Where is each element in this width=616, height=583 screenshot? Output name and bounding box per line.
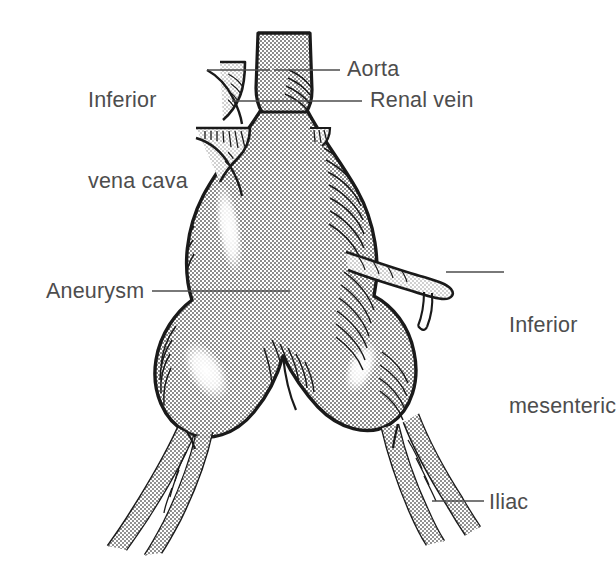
label-inferior-vena-cava-line1: Inferior	[88, 87, 188, 114]
label-iliac: Iliac	[489, 489, 528, 515]
label-renal-vein: Renal vein	[370, 87, 474, 113]
ima-tip-b	[427, 293, 432, 327]
label-inferior-mesenteric-line2: mesenteric	[509, 393, 616, 420]
aneurysm-illustration: Inferior vena cava Aorta Renal vein Infe…	[0, 0, 616, 583]
label-inferior-mesenteric-line1: Inferior	[509, 312, 616, 339]
left-iliac-artery	[108, 428, 212, 555]
inferior-vena-cava	[207, 62, 245, 124]
ima-tip-a	[418, 292, 424, 326]
ima-tip-loop	[418, 326, 427, 330]
label-inferior-vena-cava-line2: vena cava	[88, 168, 188, 195]
label-aneurysm: Aneurysm	[46, 278, 144, 304]
label-inferior-mesenteric: Inferior mesenteric	[509, 258, 616, 474]
label-aorta: Aorta	[347, 56, 399, 82]
aorta-stump	[256, 33, 312, 112]
label-inferior-vena-cava: Inferior vena cava	[88, 33, 188, 249]
